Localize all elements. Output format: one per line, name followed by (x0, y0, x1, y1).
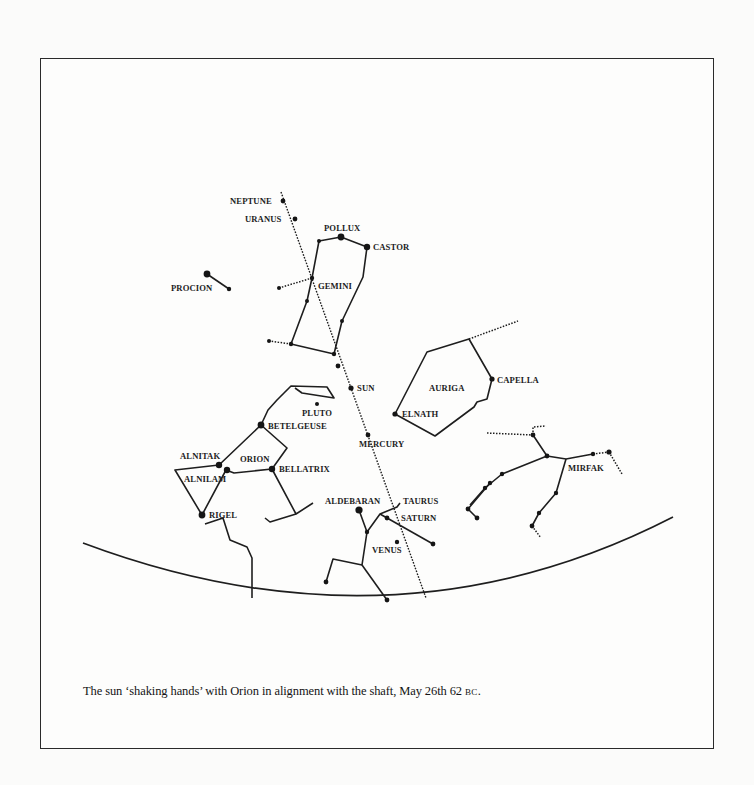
pluto-dot (315, 402, 319, 406)
label-pluto: PLUTO (302, 408, 332, 418)
label-procion: PROCION (171, 283, 213, 293)
label-castor: CASTOR (373, 242, 410, 252)
venus-dot (395, 540, 399, 544)
label-mercury: MERCURY (359, 439, 405, 449)
label-mirfak: MIRFAK (568, 463, 604, 473)
label-aldebaran: ALDEBARAN (325, 496, 381, 506)
label-orion: ORION (240, 454, 270, 464)
caption-text: The sun ‘shaking hands’ with Orion in al… (83, 684, 465, 698)
uranus-dot (293, 217, 298, 222)
label-venus: VENUS (372, 545, 402, 555)
label-gemini: GEMINI (318, 281, 353, 291)
neptune-dot (281, 199, 286, 204)
label-auriga: AURIGA (429, 383, 465, 393)
label-taurus: TAURUS (403, 496, 438, 506)
label-rigel: RIGEL (209, 510, 237, 520)
label-saturn: SATURN (401, 513, 437, 523)
label-bellatrix: BELLATRIX (279, 464, 331, 474)
label-sun: SUN (357, 383, 375, 393)
caption-end: . (478, 684, 481, 698)
label-alnitak: ALNITAK (180, 451, 220, 461)
label-capella: CAPELLA (497, 375, 539, 385)
sun-dot (348, 385, 353, 390)
label-pollux: POLLUX (324, 223, 361, 233)
caption-era: BC (465, 687, 478, 697)
label-neptune: NEPTUNE (230, 196, 272, 206)
gemini-shaft-dot (336, 364, 341, 369)
gemini-constellation (267, 234, 370, 357)
mercury-dot (366, 433, 371, 438)
horizon-arc (83, 517, 673, 596)
label-elnath: ELNATH (402, 409, 438, 419)
label-alnilam: ALNILAM (184, 474, 226, 484)
figure-caption: The sun ‘shaking hands’ with Orion in al… (83, 684, 481, 699)
perseus-constellation (466, 426, 622, 538)
label-uranus: URANUS (245, 214, 282, 224)
label-betelgeuse: BETELGEUSE (268, 421, 327, 431)
star-map: NEPTUNE URANUS POLLUX CASTOR GEMINI PROC… (0, 0, 754, 785)
